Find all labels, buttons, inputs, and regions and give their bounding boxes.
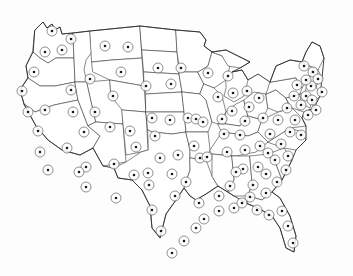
bullseye-marker[interactable]	[307, 95, 317, 105]
bullseye-marker[interactable]	[170, 191, 180, 201]
bullseye-marker[interactable]	[231, 167, 241, 177]
bullseye-marker[interactable]	[313, 74, 323, 84]
bullseye-marker[interactable]	[265, 129, 275, 139]
bullseye-marker[interactable]	[288, 238, 298, 248]
bullseye-marker[interactable]	[217, 114, 227, 124]
bullseye-marker[interactable]	[263, 148, 273, 158]
bullseye-marker[interactable]	[147, 205, 157, 215]
bullseye-marker[interactable]	[155, 153, 165, 163]
bullseye-marker[interactable]	[225, 181, 235, 191]
bullseye-marker[interactable]	[85, 74, 95, 84]
bullseye-marker[interactable]	[214, 206, 224, 216]
bullseye-marker[interactable]	[79, 127, 89, 137]
bullseye-marker[interactable]	[176, 63, 186, 73]
bullseye-marker[interactable]	[108, 91, 118, 101]
bullseye-marker[interactable]	[23, 107, 33, 117]
bullseye-marker[interactable]	[253, 162, 263, 172]
bullseye-marker[interactable]	[111, 193, 121, 203]
bullseye-marker[interactable]	[248, 180, 258, 190]
bullseye-marker[interactable]	[213, 92, 223, 102]
bullseye-marker[interactable]	[66, 34, 76, 44]
bullseye-marker[interactable]	[252, 205, 262, 215]
bullseye-marker[interactable]	[40, 47, 50, 57]
bullseye-marker[interactable]	[198, 117, 208, 127]
bullseye-marker[interactable]	[283, 151, 293, 161]
bullseye-marker[interactable]	[74, 167, 84, 177]
bullseye-marker[interactable]	[116, 67, 126, 77]
bullseye-marker[interactable]	[228, 88, 238, 98]
bullseye-marker[interactable]	[167, 169, 177, 179]
bullseye-marker[interactable]	[281, 165, 291, 175]
bullseye-marker[interactable]	[261, 188, 271, 198]
bullseye-marker[interactable]	[189, 141, 199, 151]
bullseye-marker[interactable]	[203, 68, 213, 78]
bullseye-marker[interactable]	[150, 131, 160, 141]
bullseye-marker[interactable]	[235, 130, 245, 140]
bullseye-marker[interactable]	[296, 100, 306, 110]
bullseye-marker[interactable]	[141, 81, 151, 91]
bullseye-marker[interactable]	[199, 214, 209, 224]
bullseye-marker[interactable]	[264, 210, 274, 220]
bullseye-marker[interactable]	[222, 147, 232, 157]
bullseye-marker[interactable]	[109, 159, 119, 169]
bullseye-marker[interactable]	[244, 102, 254, 112]
bullseye-marker[interactable]	[261, 169, 271, 179]
bullseye-marker[interactable]	[165, 115, 175, 125]
bullseye-marker[interactable]	[292, 80, 302, 90]
bullseye-marker[interactable]	[131, 142, 141, 152]
bullseye-marker[interactable]	[290, 115, 300, 125]
bullseye-marker[interactable]	[129, 170, 139, 180]
bullseye-marker[interactable]	[40, 105, 50, 115]
bullseye-marker[interactable]	[156, 226, 166, 236]
bullseye-marker[interactable]	[33, 126, 43, 136]
bullseye-marker[interactable]	[147, 113, 157, 123]
bullseye-marker[interactable]	[273, 115, 283, 125]
bullseye-marker[interactable]	[105, 122, 115, 132]
bullseye-marker[interactable]	[227, 106, 237, 116]
bullseye-marker[interactable]	[317, 87, 327, 97]
bullseye-marker[interactable]	[283, 221, 293, 231]
bullseye-marker[interactable]	[43, 165, 53, 175]
bullseye-marker[interactable]	[296, 130, 306, 140]
bullseye-marker[interactable]	[144, 180, 154, 190]
bullseye-marker[interactable]	[17, 86, 27, 96]
bullseye-marker[interactable]	[123, 42, 133, 52]
bullseye-marker[interactable]	[66, 85, 76, 95]
bullseye-marker[interactable]	[68, 107, 78, 117]
bullseye-marker[interactable]	[202, 152, 212, 162]
bullseye-marker[interactable]	[303, 110, 313, 120]
bullseye-marker[interactable]	[35, 147, 45, 157]
bullseye-marker[interactable]	[240, 116, 250, 126]
bullseye-marker[interactable]	[181, 177, 191, 187]
bullseye-marker[interactable]	[282, 103, 292, 113]
bullseye-marker[interactable]	[258, 113, 268, 123]
bullseye-marker[interactable]	[81, 182, 91, 192]
bullseye-marker[interactable]	[223, 71, 233, 81]
bullseye-marker[interactable]	[237, 198, 247, 208]
bullseye-marker[interactable]	[276, 139, 286, 149]
bullseye-marker[interactable]	[194, 198, 204, 208]
bullseye-marker[interactable]	[219, 129, 229, 139]
bullseye-marker[interactable]	[191, 223, 201, 233]
bullseye-marker[interactable]	[57, 45, 67, 55]
bullseye-marker[interactable]	[285, 127, 295, 137]
bullseye-marker[interactable]	[240, 145, 250, 155]
bullseye-marker[interactable]	[272, 177, 282, 187]
bullseye-marker[interactable]	[289, 91, 299, 101]
bullseye-marker[interactable]	[167, 248, 177, 258]
bullseye-marker[interactable]	[255, 141, 265, 151]
bullseye-marker[interactable]	[47, 26, 57, 36]
bullseye-marker[interactable]	[179, 236, 189, 246]
bullseye-marker[interactable]	[301, 75, 311, 85]
bullseye-marker[interactable]	[62, 143, 72, 153]
bullseye-marker[interactable]	[173, 150, 183, 160]
bullseye-marker[interactable]	[214, 191, 224, 201]
bullseye-marker[interactable]	[100, 41, 110, 51]
bullseye-marker[interactable]	[125, 126, 135, 136]
bullseye-marker[interactable]	[29, 67, 39, 77]
bullseye-marker[interactable]	[153, 63, 163, 73]
bullseye-marker[interactable]	[242, 86, 252, 96]
bullseye-marker[interactable]	[254, 93, 264, 103]
bullseye-marker[interactable]	[277, 206, 287, 216]
bullseye-marker[interactable]	[166, 79, 176, 89]
